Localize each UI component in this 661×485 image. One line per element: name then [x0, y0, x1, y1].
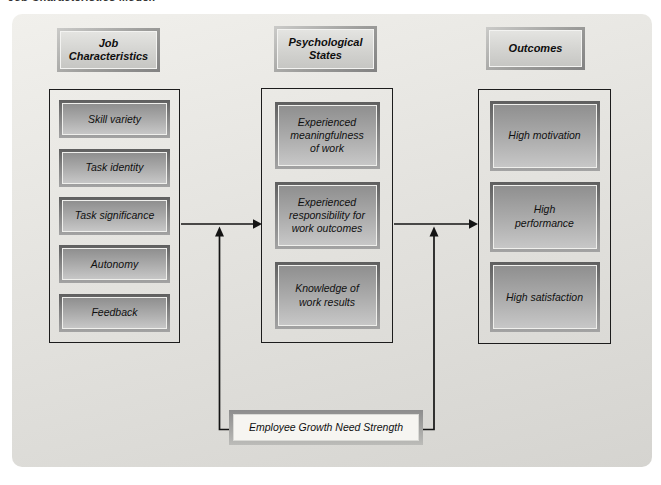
node-task-identity: Task identity: [59, 149, 170, 187]
node-experienced-meaningfulness: Experienced meaningfulness of work: [275, 102, 380, 169]
node-task-significance-label: Task significance: [62, 200, 167, 232]
moderator-employee-growth-need-strength: Employee Growth Need Strength: [229, 410, 423, 445]
node-high-motivation-label: High motivation: [493, 104, 597, 168]
header-outcomes: Outcomes: [486, 27, 585, 70]
node-high-satisfaction: High satisfaction: [490, 262, 600, 332]
node-feedback: Feedback: [59, 294, 170, 332]
node-experienced-meaningfulness-label: Experienced meaningfulness of work: [278, 105, 377, 166]
node-autonomy-label: Autonomy: [62, 248, 167, 280]
header-job-characteristics: Job Characteristics: [57, 28, 160, 72]
node-experienced-responsibility: Experienced responsibility for work outc…: [275, 182, 380, 249]
node-experienced-responsibility-label: Experienced responsibility for work outc…: [278, 185, 377, 246]
node-autonomy: Autonomy: [59, 245, 170, 283]
column-outcomes: High motivation High performance High sa…: [478, 89, 611, 344]
header-outcomes-label: Outcomes: [489, 30, 582, 67]
node-task-significance: Task significance: [59, 197, 170, 235]
moderator-label: Employee Growth Need Strength: [233, 414, 419, 441]
header-job-characteristics-label: Job Characteristics: [60, 31, 157, 69]
node-high-performance-label: High performance: [493, 185, 597, 249]
node-knowledge-of-results-label: Knowledge of work results: [278, 265, 377, 326]
node-task-identity-label: Task identity: [62, 152, 167, 184]
figure-root: Job Characteristics Model. Job Character…: [0, 0, 661, 485]
node-high-motivation: High motivation: [490, 101, 600, 171]
node-skill-variety-label: Skill variety: [62, 103, 167, 135]
header-psychological-states: Psychological States: [274, 26, 377, 72]
column-job-characteristics: Skill variety Task identity Task signifi…: [49, 89, 180, 343]
figure-caption: Job Characteristics Model.: [8, 0, 238, 5]
node-knowledge-of-results: Knowledge of work results: [275, 262, 380, 329]
figure-caption-text: Job Characteristics Model.: [8, 0, 238, 4]
node-high-performance: High performance: [490, 182, 600, 252]
node-feedback-label: Feedback: [62, 297, 167, 329]
column-psychological-states: Experienced meaningfulness of work Exper…: [261, 88, 393, 343]
node-high-satisfaction-label: High satisfaction: [493, 265, 597, 329]
node-skill-variety: Skill variety: [59, 100, 170, 138]
header-psychological-states-label: Psychological States: [277, 29, 374, 69]
